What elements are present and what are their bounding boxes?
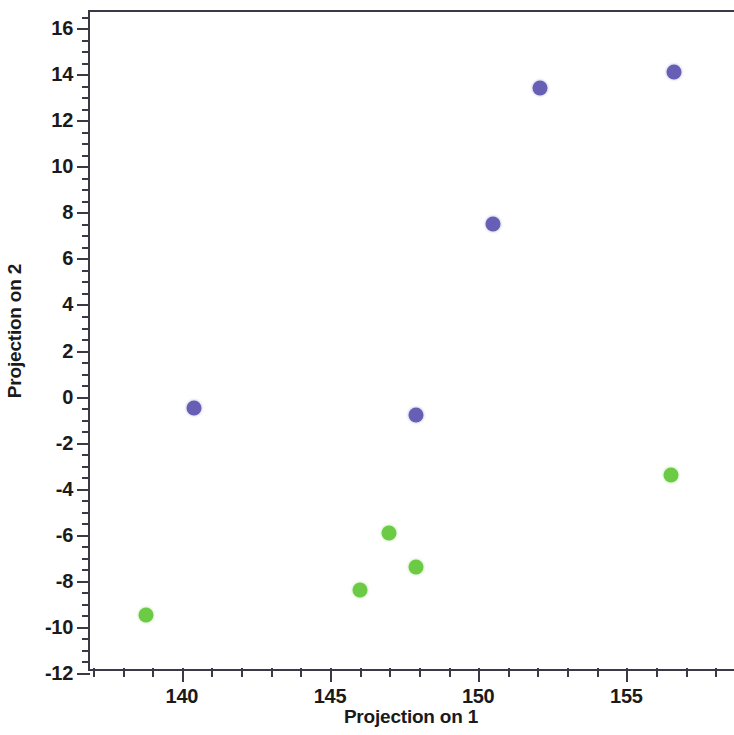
- data-point: [139, 608, 154, 623]
- tick-mark: [82, 86, 90, 88]
- plot-area: [90, 12, 734, 669]
- tick-mark: [449, 668, 451, 677]
- tick-mark: [152, 668, 154, 677]
- tick-mark: [77, 443, 90, 445]
- data-point: [408, 560, 423, 575]
- tick-mark: [82, 109, 90, 111]
- tick-mark: [389, 668, 391, 677]
- tick-mark: [271, 668, 273, 677]
- tick-mark: [93, 668, 95, 677]
- y-axis-tick-label: -12: [45, 662, 73, 685]
- tick-mark: [82, 638, 90, 640]
- y-axis-tick-label: -8: [56, 569, 73, 592]
- tick-mark: [82, 224, 90, 226]
- data-point: [352, 583, 367, 598]
- tick-mark: [82, 661, 90, 663]
- tick-mark: [82, 281, 90, 283]
- tick-mark: [82, 247, 90, 249]
- y-axis-tick-label: 6: [62, 247, 73, 270]
- tick-mark: [77, 397, 90, 399]
- y-axis-tick-label: 8: [62, 201, 73, 224]
- tick-mark: [82, 132, 90, 134]
- tick-mark: [82, 650, 90, 652]
- tick-mark: [82, 51, 90, 53]
- tick-mark: [656, 668, 658, 677]
- tick-mark: [82, 431, 90, 433]
- tick-mark: [77, 489, 90, 491]
- y-axis-tick-label: -4: [56, 477, 73, 500]
- y-axis-tick-label: 14: [51, 63, 73, 86]
- y-axis-tick-label: -2: [56, 431, 73, 454]
- tick-mark: [82, 328, 90, 330]
- tick-mark: [419, 668, 421, 677]
- x-axis-tick-label: 155: [610, 685, 642, 708]
- data-point: [533, 81, 548, 96]
- data-point: [663, 467, 678, 482]
- scatter-plot-figure: Projection on 2 -12-10-8-6-4-20246810121…: [0, 0, 734, 735]
- tick-mark: [597, 668, 599, 677]
- tick-mark: [77, 258, 90, 260]
- tick-mark: [82, 63, 90, 65]
- tick-mark: [82, 374, 90, 376]
- tick-mark: [82, 500, 90, 502]
- tick-mark: [77, 673, 90, 675]
- tick-mark: [123, 668, 125, 677]
- tick-mark: [360, 668, 362, 677]
- tick-mark: [478, 668, 480, 682]
- tick-mark: [82, 454, 90, 456]
- tick-mark: [77, 74, 90, 76]
- tick-mark: [241, 668, 243, 677]
- tick-mark: [211, 668, 213, 677]
- tick-mark: [82, 558, 90, 560]
- tick-mark: [82, 270, 90, 272]
- tick-mark: [82, 546, 90, 548]
- tick-mark: [300, 668, 302, 677]
- tick-mark: [686, 668, 688, 677]
- y-axis-tick-label: 12: [51, 109, 73, 132]
- tick-mark: [567, 668, 569, 677]
- y-axis-tick-label: 16: [51, 17, 73, 40]
- x-axis-tick-label: 140: [166, 685, 198, 708]
- y-axis-tick-label: -6: [56, 523, 73, 546]
- tick-mark: [82, 512, 90, 514]
- tick-mark: [82, 408, 90, 410]
- tick-mark: [82, 155, 90, 157]
- y-axis-tick-label: 0: [62, 385, 73, 408]
- tick-mark: [537, 668, 539, 677]
- tick-mark: [77, 120, 90, 122]
- tick-mark: [82, 477, 90, 479]
- tick-mark: [82, 523, 90, 525]
- tick-mark: [77, 535, 90, 537]
- tick-mark: [77, 304, 90, 306]
- y-axis-tick-label: 10: [51, 155, 73, 178]
- tick-mark: [82, 339, 90, 341]
- x-axis-tick-label: 145: [314, 685, 346, 708]
- tick-mark: [82, 201, 90, 203]
- tick-mark: [77, 627, 90, 629]
- tick-mark: [626, 668, 628, 682]
- tick-mark: [82, 178, 90, 180]
- tick-mark: [82, 362, 90, 364]
- tick-mark: [82, 189, 90, 191]
- tick-mark: [82, 235, 90, 237]
- data-point: [186, 401, 201, 416]
- tick-mark: [82, 40, 90, 42]
- tick-mark: [182, 668, 184, 682]
- plot-frame: -12-10-8-6-4-20246810121416 140145150155: [88, 10, 734, 671]
- tick-mark: [82, 420, 90, 422]
- tick-mark: [82, 385, 90, 387]
- data-point: [382, 525, 397, 540]
- tick-mark: [77, 351, 90, 353]
- x-axis-tick-label: 150: [462, 685, 494, 708]
- data-point: [486, 216, 501, 231]
- tick-mark: [82, 316, 90, 318]
- data-point: [666, 64, 681, 79]
- y-axis-tick-label: -10: [45, 615, 73, 638]
- tick-mark: [82, 569, 90, 571]
- tick-mark: [82, 97, 90, 99]
- tick-mark: [715, 668, 717, 677]
- y-axis-title-text: Projection on 2: [4, 263, 26, 397]
- tick-mark: [82, 17, 90, 19]
- tick-mark: [77, 581, 90, 583]
- y-axis-title: Projection on 2: [2, 0, 28, 661]
